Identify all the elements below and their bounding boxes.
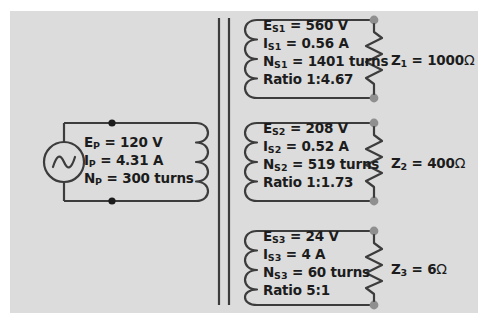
secondary-2-voltage-symbol: E <box>263 120 272 136</box>
secondary-2-turns-symbol: N <box>263 156 274 172</box>
secondary-2-ratio-line: Ratio 1:1.73 <box>263 175 379 193</box>
secondary-1-voltage-subscript: S1 <box>272 23 285 34</box>
secondary-1-voltage-value: = 560 V <box>285 17 347 33</box>
primary-voltage-subscript: P <box>93 140 100 151</box>
primary-turns-value: = 300 turns <box>102 170 194 186</box>
load-1-symbol: Z <box>391 52 401 68</box>
secondary-2-voltage-value: = 208 V <box>285 120 347 136</box>
primary-turns-symbol: N <box>84 170 95 186</box>
secondary-1-ratio-value: 1:4.67 <box>302 71 353 87</box>
diagram-canvas: EP = 120 V IP = 4.31 A NP = 300 turns ES… <box>0 0 488 325</box>
secondary-2-winding-icon <box>245 123 257 201</box>
secondary-3-voltage-subscript: S3 <box>272 234 285 245</box>
secondary-1-voltage-line: ES1 = 560 V <box>263 18 388 36</box>
secondary-3-turns-value: = 60 turns <box>288 264 370 280</box>
secondary-1-current-value: = 0.56 A <box>281 35 348 51</box>
secondary-3-current-subscript: S3 <box>268 252 281 263</box>
load-2-symbol: Z <box>391 155 401 171</box>
secondary-1-turns-subscript: S1 <box>274 59 287 70</box>
load-3-symbol: Z <box>391 261 401 277</box>
secondary-1-turns-line: NS1 = 1401 turns <box>263 54 388 72</box>
secondary-3-turns-subscript: S3 <box>274 270 287 281</box>
secondary-3-turns-symbol: N <box>263 264 274 280</box>
primary-turns-line: NP = 300 turns <box>84 171 194 189</box>
junction-dot-bottom <box>108 197 115 204</box>
secondary-3-turns-line: NS3 = 60 turns <box>263 265 370 283</box>
secondary-1-ratio-symbol: Ratio <box>263 71 302 87</box>
secondary-3-ratio-symbol: Ratio <box>263 282 302 298</box>
secondary-2-ratio-value: 1:1.73 <box>302 174 353 190</box>
secondary-3-voltage-line: ES3 = 24 V <box>263 229 370 247</box>
secondary-3-voltage-symbol: E <box>263 228 272 244</box>
secondary-3-current-value: = 4 A <box>281 246 325 262</box>
secondary-2-voltage-line: ES2 = 208 V <box>263 121 379 139</box>
secondary-1-current-line: IS1 = 0.56 A <box>263 36 388 54</box>
primary-current-value: = 4.31 A <box>96 152 163 168</box>
primary-winding-icon <box>196 123 208 201</box>
secondary-1-turns-symbol: N <box>263 53 274 69</box>
secondary-2-turns-line: NS2 = 519 turns <box>263 157 379 175</box>
secondary-1-spec-block: ES1 = 560 V IS1 = 0.56 A NS1 = 1401 turn… <box>263 18 388 90</box>
secondary-1-current-subscript: S1 <box>268 41 281 52</box>
secondary-3-ratio-value: 5:1 <box>302 282 330 298</box>
secondary-3-ratio-line: Ratio 5:1 <box>263 283 370 301</box>
load-1-label: Z1 = 1000Ω <box>391 52 474 69</box>
load-1-value: = 1000 <box>407 52 464 68</box>
primary-spec-block: EP = 120 V IP = 4.31 A NP = 300 turns <box>84 135 194 189</box>
secondary-3-winding-icon <box>245 231 257 305</box>
primary-current-line: IP = 4.31 A <box>84 153 194 171</box>
load-2-value: = 400 <box>407 155 455 171</box>
primary-voltage-line: EP = 120 V <box>84 135 194 153</box>
secondary-2-turns-subscript: S2 <box>274 162 287 173</box>
secondary-1-turns-value: = 1401 turns <box>288 53 389 69</box>
secondary-3-current-line: IS3 = 4 A <box>263 247 370 265</box>
ohm-symbol-1: Ω <box>464 52 475 68</box>
secondary-2-current-subscript: S2 <box>268 144 281 155</box>
junction-dot-top <box>108 119 115 126</box>
primary-voltage-symbol: E <box>84 134 93 150</box>
ac-source-icon <box>44 142 84 182</box>
secondary-1-ratio-line: Ratio 1:4.67 <box>263 72 388 90</box>
secondary-2-turns-value: = 519 turns <box>288 156 380 172</box>
load-3-value: = 6 <box>407 261 436 277</box>
secondary-3-spec-block: ES3 = 24 V IS3 = 4 A NS3 = 60 turns Rati… <box>263 229 370 301</box>
secondary-2-voltage-subscript: S2 <box>272 126 285 137</box>
load-2-label: Z2 = 400Ω <box>391 155 465 172</box>
secondary-1-voltage-symbol: E <box>263 17 272 33</box>
primary-voltage-value: = 120 V <box>100 134 162 150</box>
secondary-2-current-value: = 0.52 A <box>281 138 348 154</box>
secondary-2-spec-block: ES2 = 208 V IS2 = 0.52 A NS2 = 519 turns… <box>263 121 379 193</box>
secondary-1-winding-icon <box>245 20 257 98</box>
ohm-symbol-2: Ω <box>455 155 466 171</box>
ohm-symbol-3: Ω <box>436 261 447 277</box>
transformer-core-icon <box>219 18 229 305</box>
secondary-3-voltage-value: = 24 V <box>285 228 338 244</box>
secondary-2-ratio-symbol: Ratio <box>263 174 302 190</box>
primary-current-subscript: P <box>89 158 96 169</box>
secondary-2-current-line: IS2 = 0.52 A <box>263 139 379 157</box>
load-3-label: Z3 = 6Ω <box>391 261 447 278</box>
